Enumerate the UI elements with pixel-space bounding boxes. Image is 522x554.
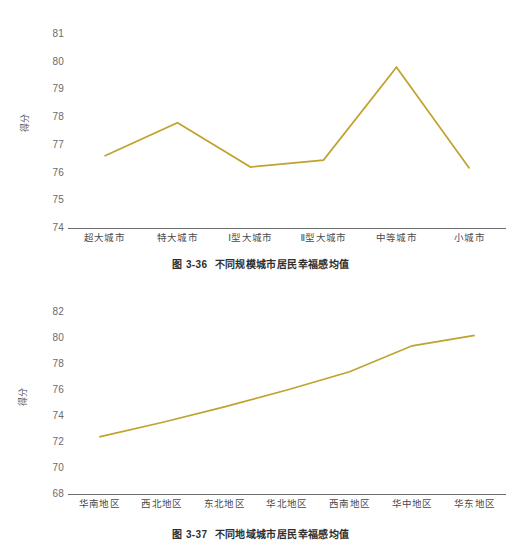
x-axis-category-labels: 超大城市特大城市Ⅰ型大城市Ⅱ型大城市中等城市小城市 <box>68 232 506 244</box>
line-series-happiness-by-city-size <box>0 0 522 240</box>
x-axis-category-label: 中等城市 <box>360 232 433 244</box>
line-series-happiness-by-region <box>0 280 522 510</box>
x-axis-category-label: 超大城市 <box>68 232 141 244</box>
x-axis-line <box>68 494 506 495</box>
figure-caption: 图 3-37不同地域城市居民幸福感均值 <box>0 528 522 542</box>
x-axis-category-label: 华中地区 <box>381 498 444 510</box>
x-axis-category-label: 华南地区 <box>68 498 131 510</box>
series-line <box>99 335 474 436</box>
figure-3-37: 得分 6870727476788082 华南地区西北地区东北地区华北地区西南地区… <box>0 280 522 554</box>
x-axis-category-label: Ⅱ型大城市 <box>287 232 360 244</box>
figure-3-36: 得分 7475767778798081 超大城市特大城市Ⅰ型大城市Ⅱ型大城市中等… <box>0 0 522 280</box>
figure-caption: 图 3-36不同规模城市居民幸福感均值 <box>0 258 522 272</box>
x-axis-category-label: 西南地区 <box>318 498 381 510</box>
figure-caption-number: 图 3-36 <box>172 259 207 270</box>
x-axis-category-label: Ⅰ型大城市 <box>214 232 287 244</box>
x-axis-category-label: 特大城市 <box>141 232 214 244</box>
figure-caption-text: 不同地域城市居民幸福感均值 <box>215 529 350 540</box>
x-axis-category-label: 西北地区 <box>131 498 194 510</box>
x-axis-category-label: 华东地区 <box>443 498 506 510</box>
figure-caption-number: 图 3-37 <box>172 529 207 540</box>
x-axis-category-label: 东北地区 <box>193 498 256 510</box>
series-line <box>105 67 470 168</box>
x-axis-line <box>68 228 506 229</box>
figure-caption-text: 不同规模城市居民幸福感均值 <box>215 259 350 270</box>
x-axis-category-labels: 华南地区西北地区东北地区华北地区西南地区华中地区华东地区 <box>68 498 506 510</box>
x-axis-category-label: 小城市 <box>433 232 506 244</box>
x-axis-category-label: 华北地区 <box>256 498 319 510</box>
